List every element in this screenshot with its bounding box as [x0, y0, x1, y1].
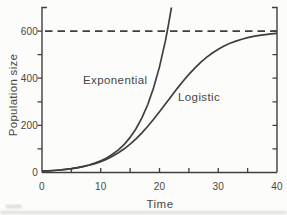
y-tick-label-600: 600	[12, 26, 38, 37]
y-tick-label-200: 200	[12, 120, 38, 131]
population-growth-figure: Population size Time Exponential Logisti…	[0, 0, 287, 215]
logistic-curve	[42, 33, 277, 171]
x-tick-label-0: 0	[30, 181, 54, 192]
logistic-curve-label: Logistic	[178, 91, 220, 103]
left-axis-spine	[42, 8, 47, 173]
y-tick-label-400: 400	[12, 73, 38, 84]
y-axis-ticks	[38, 31, 278, 149]
exponential-curve	[42, 8, 171, 172]
scan-artifact-bottom	[0, 211, 287, 214]
x-tick-label-30: 30	[206, 181, 230, 192]
x-tick-label-10: 10	[89, 181, 113, 192]
y-tick-label-0: 0	[12, 167, 38, 178]
right-axis-spine	[272, 8, 277, 173]
x-tick-label-20: 20	[148, 181, 172, 192]
scan-artifact-left	[6, 205, 22, 208]
x-tick-label-40: 40	[265, 181, 287, 192]
exponential-curve-label: Exponential	[83, 74, 148, 86]
x-axis-title: Time	[115, 198, 205, 210]
